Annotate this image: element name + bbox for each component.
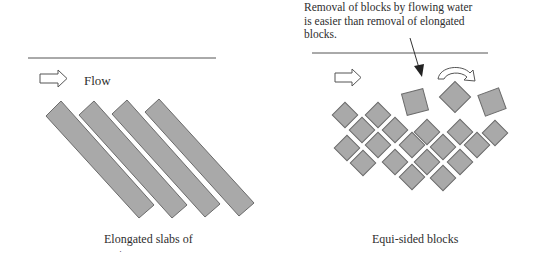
dislodged-block-1: [402, 89, 429, 116]
dislodged-block-3: [478, 88, 506, 116]
left-caption: Elongated slabs of: [104, 232, 193, 246]
left-caption-continuation: ·: [119, 244, 122, 258]
pointer-arrow-icon: [410, 38, 424, 77]
curved-removal-arrow-icon: [438, 67, 475, 81]
removal-annotation: Removal of blocks by flowing water is ea…: [304, 1, 474, 42]
dislodged-blocks: [402, 81, 507, 116]
right-caption: Equi-sided blocks: [372, 232, 458, 246]
right-flow-arrow-icon: [335, 69, 361, 86]
elongated-slabs: [46, 99, 254, 218]
flow-label: Flow: [84, 74, 111, 88]
left-flow-arrow-icon: [40, 70, 67, 87]
dislodged-block-2: [439, 81, 470, 112]
packed-blocks: [332, 102, 507, 190]
